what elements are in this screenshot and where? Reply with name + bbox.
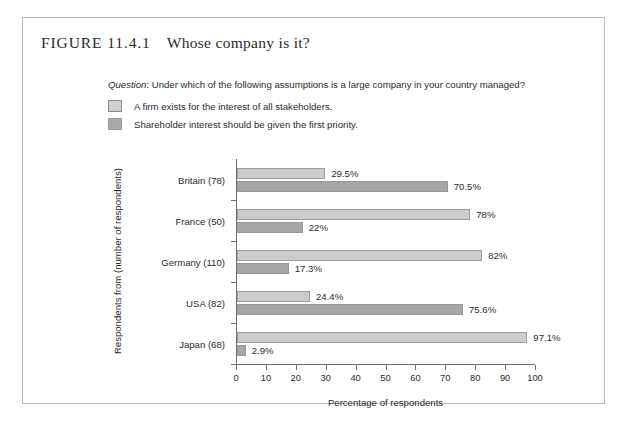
bar <box>237 291 310 302</box>
x-tick-label: 60 <box>410 372 420 383</box>
figure-container: FIGURE 11.4.1Whose company is it? Questi… <box>22 17 605 404</box>
category-label: USA (82) <box>186 297 225 308</box>
bar <box>237 250 482 261</box>
question-line: Question: Under which of the following a… <box>108 79 525 90</box>
x-tick-label: 0 <box>233 372 238 383</box>
bar-value-label: 24.4% <box>316 291 343 302</box>
x-tick <box>326 365 327 370</box>
x-tick <box>475 365 476 370</box>
y-tick <box>231 200 236 201</box>
x-tick-label: 80 <box>470 372 480 383</box>
legend-item-label: A firm exists for the interest of all st… <box>134 101 332 112</box>
bar-value-label: 75.6% <box>469 304 496 315</box>
bar <box>237 168 325 179</box>
legend-swatch-icon <box>108 118 122 130</box>
x-tick-label: 50 <box>380 372 390 383</box>
legend-swatch-icon <box>108 100 122 112</box>
bar <box>237 181 448 192</box>
question-keyword: Question <box>108 79 146 90</box>
x-tick-label: 40 <box>350 372 360 383</box>
bar-value-label: 2.9% <box>252 345 274 356</box>
figure-title: FIGURE 11.4.1Whose company is it? <box>41 34 310 52</box>
bar-value-label: 22% <box>309 222 328 233</box>
bar <box>237 345 246 356</box>
x-tick <box>236 365 237 370</box>
y-tick <box>231 364 236 365</box>
category-label: Japan (68) <box>179 338 225 349</box>
x-tick-label: 70 <box>440 372 450 383</box>
x-tick <box>356 365 357 370</box>
figure-caption: Whose company is it? <box>167 34 310 51</box>
legend-item-label: Shareholder interest should be given the… <box>134 119 358 130</box>
x-tick <box>386 365 387 370</box>
category-label: Germany (110) <box>161 256 225 267</box>
y-tick <box>231 241 236 242</box>
bar <box>237 222 303 233</box>
category-label: Britain (78) <box>178 174 225 185</box>
figure-number: FIGURE 11.4.1 <box>41 34 151 51</box>
x-tick <box>266 365 267 370</box>
x-tick-label: 20 <box>291 372 301 383</box>
bar-value-label: 17.3% <box>295 263 322 274</box>
x-tick <box>415 365 416 370</box>
bar-value-label: 82% <box>488 250 507 261</box>
x-axis-title: Percentage of respondents <box>236 397 535 408</box>
y-axis-title: Respondents from (number of respondents) <box>112 158 123 365</box>
category-label: France (50) <box>175 215 225 226</box>
bar-value-label: 97.1% <box>533 332 560 343</box>
chart-legend: A firm exists for the interest of all st… <box>108 98 358 134</box>
bar <box>237 263 289 274</box>
plot-area: 0102030405060708090100 Britain (78)29.5%… <box>236 159 535 364</box>
x-tick-label: 30 <box>320 372 330 383</box>
x-tick-label: 90 <box>500 372 510 383</box>
x-tick <box>296 365 297 370</box>
bar-value-label: 29.5% <box>331 168 358 179</box>
question-text: : Under which of the following assumptio… <box>146 79 525 90</box>
x-tick-label: 10 <box>261 372 271 383</box>
x-tick-label: 100 <box>527 372 543 383</box>
y-tick <box>231 282 236 283</box>
legend-item: A firm exists for the interest of all st… <box>108 98 358 114</box>
x-tick <box>445 365 446 370</box>
legend-item: Shareholder interest should be given the… <box>108 116 358 132</box>
x-tick <box>535 365 536 370</box>
bar-value-label: 78% <box>476 209 495 220</box>
x-tick <box>505 365 506 370</box>
bar-value-label: 70.5% <box>454 181 481 192</box>
bar <box>237 332 527 343</box>
y-tick <box>231 323 236 324</box>
bar <box>237 209 470 220</box>
bar <box>237 304 463 315</box>
